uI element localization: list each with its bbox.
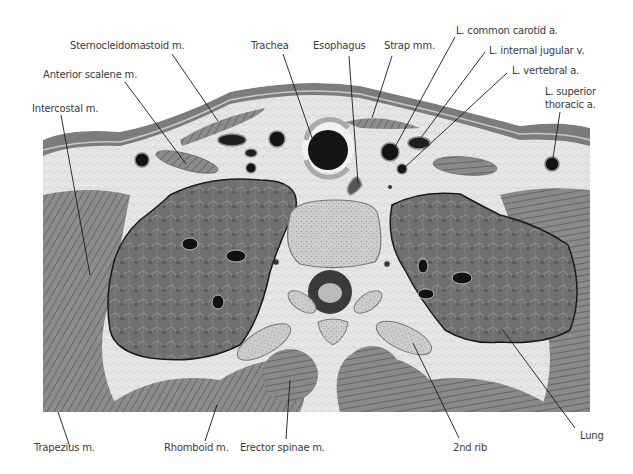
label-l-superior-thoracic-line1: L. superior bbox=[545, 86, 596, 98]
label-l-vertebral: L. vertebral a. bbox=[512, 65, 579, 77]
label-lung: Lung bbox=[580, 430, 604, 442]
anatomy-figure: Sternocleidomastoid m. Anterior scalene … bbox=[0, 0, 633, 474]
label-trachea: Trachea bbox=[251, 40, 289, 52]
label-trapezius: Trapezius m. bbox=[34, 442, 95, 454]
label-erector-spinae: Erector spinae m. bbox=[240, 442, 325, 454]
label-strap-muscles: Strap mm. bbox=[384, 40, 435, 52]
label-intercostal: Intercostal m. bbox=[32, 103, 98, 115]
label-second-rib: 2nd rib bbox=[453, 442, 487, 454]
label-rhomboid: Rhomboid m. bbox=[164, 442, 229, 454]
label-esophagus: Esophagus bbox=[313, 40, 366, 52]
label-l-internal-jugular: L. internal jugular v. bbox=[489, 45, 584, 57]
label-anterior-scalene: Anterior scalene m. bbox=[43, 69, 137, 81]
label-l-common-carotid: L. common carotid a. bbox=[456, 25, 558, 37]
body-section bbox=[43, 80, 590, 415]
label-sternocleidomastoid: Sternocleidomastoid m. bbox=[70, 40, 184, 52]
label-l-superior-thoracic-line2: thoracic a. bbox=[545, 99, 596, 111]
